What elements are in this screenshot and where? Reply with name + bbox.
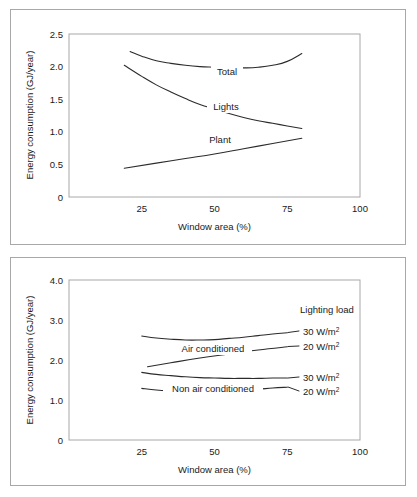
bottom-xtick-75: 75 (282, 446, 293, 457)
bottom-ytick-2_0: 2.0 (50, 355, 63, 366)
bottom-xtick-25: 25 (136, 446, 147, 457)
legend-item-nonac-30: 30 W/m2 (303, 372, 340, 384)
legend-item-nonac-20: 20 W/m2 (303, 386, 340, 398)
group-label-air-conditioned: Air conditioned (182, 343, 245, 354)
curve-ac-30 (142, 333, 288, 340)
legend-heading: Lighting load (300, 304, 354, 315)
top-x-axis-title: Window area (%) (178, 221, 251, 232)
curve-label-plant: Plant (209, 134, 231, 145)
top-xtick-25: 25 (136, 203, 147, 214)
group-label-non-air-conditioned: Non air conditioned (172, 383, 254, 394)
curve-label-lights: Lights (213, 101, 239, 112)
top-ytick-1_5: 1.5 (50, 94, 63, 105)
top-chart-svg: 2.5 2.0 1.5 1.0 0.5 0 Energy consumption… (11, 10, 405, 244)
top-ytick-0_5: 0.5 (50, 159, 63, 170)
leader-nonac-30 (288, 377, 299, 378)
top-plot-area (69, 34, 360, 197)
top-ytick-2_5: 2.5 (50, 29, 63, 40)
leader-ac-20 (288, 346, 299, 347)
bottom-chart-svg: 4.0 3.0 2.0 1.0 0 Energy consumption (GJ… (11, 258, 405, 485)
legend-item-ac-20: 20 W/m2 (303, 341, 340, 353)
chart-panel-top: 2.5 2.0 1.5 1.0 0.5 0 Energy consumption… (10, 9, 406, 245)
figure-page: 2.5 2.0 1.5 1.0 0.5 0 Energy consumption… (0, 0, 417, 497)
top-ytick-2_0: 2.0 (50, 61, 63, 72)
top-ytick-0: 0 (58, 192, 63, 203)
chart-panel-bottom: 4.0 3.0 2.0 1.0 0 Energy consumption (GJ… (10, 257, 406, 486)
top-ytick-1_0: 1.0 (50, 126, 63, 137)
bottom-ytick-0: 0 (58, 435, 63, 446)
top-xtick-50: 50 (209, 203, 220, 214)
curve-label-total: Total (217, 66, 237, 77)
bottom-x-axis-title: Window area (%) (178, 464, 251, 475)
bottom-xtick-100: 100 (352, 446, 368, 457)
bottom-ytick-4_0: 4.0 (50, 275, 63, 286)
top-y-axis-title: Energy consumption (GJ/year) (24, 51, 35, 180)
legend-item-ac-30: 30 W/m2 (303, 326, 340, 338)
curve-nonac-30 (142, 372, 288, 378)
leader-nonac-20 (288, 387, 299, 391)
bottom-y-axis-title: Energy consumption (GJ/year) (24, 296, 35, 425)
top-xtick-100: 100 (352, 203, 368, 214)
bottom-ytick-1_0: 1.0 (50, 395, 63, 406)
bottom-xtick-50: 50 (209, 446, 220, 457)
leader-ac-30 (288, 331, 299, 333)
bottom-ytick-3_0: 3.0 (50, 315, 63, 326)
top-xtick-75: 75 (282, 203, 293, 214)
